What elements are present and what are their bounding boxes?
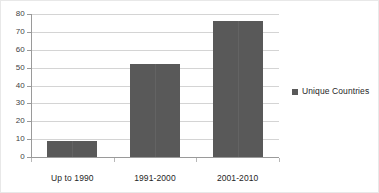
legend-label: Unique Countries xyxy=(302,87,369,96)
y-axis-tick-label: 60 xyxy=(1,46,25,54)
y-axis-line xyxy=(31,14,32,158)
x-axis-tick-label: 2001-2010 xyxy=(196,173,279,183)
y-axis-tick-mark xyxy=(27,14,31,15)
y-axis-tick-mark xyxy=(27,86,31,87)
y-axis-tick-label: 70 xyxy=(1,28,25,36)
y-axis-tick-mark xyxy=(27,121,31,122)
y-axis-tick-label: 10 xyxy=(1,135,25,143)
bar xyxy=(130,64,180,157)
y-axis-tick-label: 20 xyxy=(1,117,25,125)
bar-chart: Unique Countries 01020304050607080Up to … xyxy=(0,0,379,193)
y-axis-tick-label: 80 xyxy=(1,10,25,18)
bar xyxy=(47,141,97,157)
y-axis-tick-label: 0 xyxy=(1,153,25,161)
bar-seam xyxy=(238,21,239,157)
y-axis-tick-label: 40 xyxy=(1,82,25,90)
y-axis-tick-mark xyxy=(27,139,31,140)
bar-seam xyxy=(155,64,156,157)
y-axis-tick-label: 50 xyxy=(1,64,25,72)
chart-legend: Unique Countries xyxy=(292,87,369,96)
y-axis-tick-mark xyxy=(27,32,31,33)
x-axis-tick-mark xyxy=(31,158,32,162)
y-axis-tick-mark xyxy=(27,103,31,104)
y-axis-tick-label: 30 xyxy=(1,99,25,107)
x-axis-tick-mark xyxy=(114,158,115,162)
x-axis-line xyxy=(31,157,279,158)
x-axis-tick-label: 1991-2000 xyxy=(114,173,197,183)
x-axis-tick-mark xyxy=(196,158,197,162)
gridline xyxy=(31,14,279,15)
x-axis-tick-mark xyxy=(279,158,280,162)
bar xyxy=(213,21,263,157)
y-axis-tick-mark xyxy=(27,50,31,51)
legend-swatch-icon xyxy=(292,89,298,95)
y-axis-tick-mark xyxy=(27,68,31,69)
x-axis-tick-label: Up to 1990 xyxy=(31,173,114,183)
bar-seam xyxy=(72,141,73,157)
plot-area xyxy=(31,14,279,157)
